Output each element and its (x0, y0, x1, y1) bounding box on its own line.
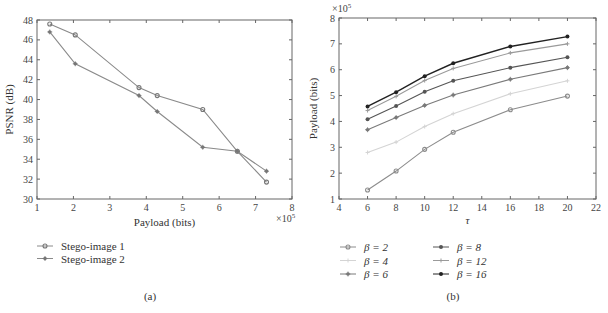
series-2 (47, 29, 269, 173)
legend-item: β = 8 (433, 241, 481, 253)
x-multiplier: ×105 (276, 212, 296, 224)
y-tick-label: 1 (330, 194, 335, 205)
y-multiplier: ×105 (332, 2, 352, 14)
x-tick-label: 4 (337, 202, 342, 213)
y-tick-label: 34 (23, 154, 33, 165)
chart-a: 1234567830323436384042444648Payload (bit… (3, 15, 296, 304)
y-tick-label: 32 (23, 174, 33, 185)
svg-text:β = 8: β = 8 (456, 241, 481, 253)
y-axis-label: PSNR (dB) (3, 84, 16, 135)
y-tick-label: 36 (23, 134, 33, 145)
x-tick-label: 6 (217, 202, 222, 213)
y-tick-label: 40 (23, 94, 33, 105)
x-tick-label: 6 (365, 202, 370, 213)
y-tick-label: 8 (330, 13, 335, 24)
x-tick-label: 18 (534, 202, 544, 213)
y-tick-label: 7 (330, 38, 335, 49)
figure: 1234567830323436384042444648Payload (bit… (0, 0, 608, 313)
y-tick-label: 38 (23, 114, 33, 125)
y-tick-label: 2 (330, 168, 335, 179)
x-tick-label: 10 (420, 202, 430, 213)
svg-text:β = 12: β = 12 (456, 255, 487, 267)
svg-text:Stego-image 1: Stego-image 1 (61, 240, 125, 252)
x-tick-label: 20 (562, 202, 572, 213)
svg-text:β = 4: β = 4 (363, 255, 388, 267)
x-tick-label: 8 (394, 202, 399, 213)
x-tick-label: 2 (71, 202, 76, 213)
x-tick-label: 3 (107, 202, 112, 213)
y-axis-label: Payload (bits) (307, 77, 320, 139)
x-tick-label: 14 (477, 202, 487, 213)
x-axis-label: τ (466, 214, 471, 226)
legend-item: Stego-image 1 (37, 240, 125, 252)
x-tick-label: 12 (448, 202, 458, 213)
svg-text:Stego-image 2: Stego-image 2 (61, 253, 125, 265)
svg-text:β = 6: β = 6 (363, 268, 388, 280)
x-tick-label: 5 (180, 202, 185, 213)
y-tick-label: 30 (23, 194, 33, 205)
y-tick-label: 44 (23, 54, 33, 65)
series-beta-4 (366, 55, 570, 121)
x-tick-label: 4 (144, 202, 149, 213)
x-tick-label: 7 (253, 202, 258, 213)
legend-item: β = 2 (340, 241, 388, 253)
y-tick-label: 48 (23, 15, 33, 26)
legend-item: β = 16 (433, 268, 487, 280)
x-tick-label: 1 (35, 202, 40, 213)
plot-area (37, 20, 292, 199)
legend-item: β = 6 (340, 268, 388, 280)
svg-text:β = 2: β = 2 (363, 241, 388, 253)
svg-text:β = 16: β = 16 (456, 268, 487, 280)
caption-b: (b) (447, 290, 460, 303)
caption-a: (a) (144, 290, 157, 303)
x-axis-label: Payload (bits) (134, 216, 196, 229)
y-tick-label: 3 (330, 142, 335, 153)
y-tick-label: 5 (330, 90, 335, 101)
y-tick-label: 46 (23, 34, 33, 45)
chart-b: 4681012141618202212345678τPayload (bits)… (307, 2, 601, 303)
legend-item: β = 12 (433, 255, 487, 267)
x-tick-label: 16 (505, 202, 515, 213)
y-tick-label: 42 (23, 74, 33, 85)
y-tick-label: 6 (330, 64, 335, 75)
series-1 (48, 22, 269, 184)
legend-item: β = 4 (340, 255, 388, 267)
series-beta-3 (365, 65, 570, 132)
legend-item: Stego-image 2 (37, 253, 125, 265)
y-tick-label: 4 (330, 116, 335, 127)
x-tick-label: 22 (591, 202, 601, 213)
